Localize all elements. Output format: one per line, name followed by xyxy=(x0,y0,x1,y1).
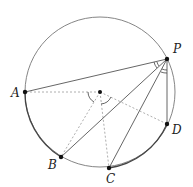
center-point xyxy=(98,90,102,94)
point-B xyxy=(59,155,63,159)
angle-mark-COD xyxy=(101,97,111,104)
chord-PB xyxy=(61,59,167,157)
point-D xyxy=(165,122,169,126)
chord-PC xyxy=(109,59,167,168)
radius-OD xyxy=(100,92,167,124)
angle-mark-CPD-inner xyxy=(162,69,167,70)
circle-angle-diagram: P A B C D xyxy=(0,0,193,187)
chord-PA xyxy=(25,59,167,92)
arc-AB xyxy=(25,92,61,157)
point-P xyxy=(165,57,169,61)
point-C xyxy=(107,166,111,170)
angle-mark-AOB xyxy=(88,92,94,102)
angle-mark-APB-inner xyxy=(157,62,159,66)
radius-OB xyxy=(61,92,100,157)
label-C: C xyxy=(106,172,115,186)
label-D: D xyxy=(171,123,182,137)
angle-mark-CPD-outer xyxy=(161,72,167,73)
angle-mark-APB-outer xyxy=(154,62,157,68)
point-A xyxy=(23,90,27,94)
arc-CD xyxy=(109,124,167,168)
label-P: P xyxy=(172,42,182,56)
label-A: A xyxy=(10,86,20,100)
label-B: B xyxy=(47,158,57,172)
